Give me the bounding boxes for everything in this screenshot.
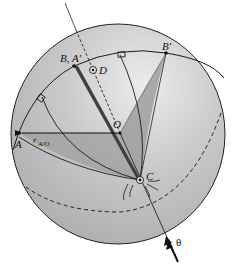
label-A: A: [14, 138, 22, 150]
point-B-Aprime: [72, 64, 76, 68]
label-C: C: [146, 170, 154, 182]
label-D: D: [98, 64, 107, 76]
point-C: [139, 179, 142, 182]
label-O: O: [113, 118, 121, 130]
label-r: r: [33, 135, 37, 145]
point-D: [92, 69, 95, 72]
sphere-diagram: B, A′ B′ D O A C r A/O θ: [0, 0, 232, 271]
label-r-subscript: A/O: [37, 140, 49, 148]
label-theta: θ: [176, 236, 181, 248]
point-O: [118, 131, 121, 134]
label-Bprime: B′: [162, 40, 172, 52]
point-A: [17, 131, 21, 135]
label-B-Aprime: B, A′: [60, 52, 82, 64]
rotation-axis-top: [65, 3, 76, 30]
